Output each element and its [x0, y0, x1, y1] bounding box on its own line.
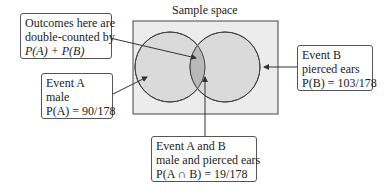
event-a-callout: Event A male P(A) = 90/178	[41, 73, 113, 119]
callout-line: Outcomes here are	[25, 16, 107, 30]
callout-line: pierced ears	[302, 62, 368, 76]
event-b-callout: Event B pierced ears P(B) = 103/178	[297, 45, 373, 91]
sample-space-title: Sample space	[172, 3, 238, 18]
callout-line: P(B) = 103/178	[302, 76, 368, 90]
callout-line: P(A) = 90/178	[46, 104, 108, 118]
callout-line: P(A) + P(B)	[25, 44, 107, 58]
callout-line: double-counted by	[25, 30, 107, 44]
double-counted-callout: Outcomes here are double-counted by P(A)…	[20, 13, 112, 59]
callout-line: P(A ∩ B) = 19/178	[156, 167, 252, 181]
callout-line: Event A	[46, 76, 108, 90]
callout-line: male	[46, 90, 108, 104]
event-a-and-b-callout: Event A and B male and pierced ears P(A …	[151, 136, 257, 182]
callout-line: Event A and B	[156, 139, 252, 153]
callout-line: male and pierced ears	[156, 153, 252, 167]
callout-line: Event B	[302, 48, 368, 62]
